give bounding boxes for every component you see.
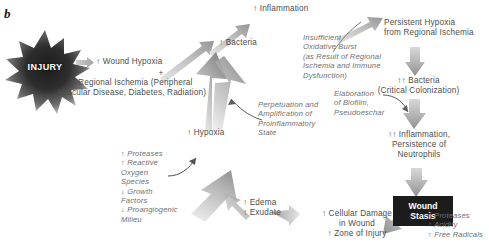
node-regional-ischemia: ↑ Regional Ischemia (Peripheral Vascular… [32,78,232,98]
wound-healing-pathophysiology-diagram: b INJURY ↑ Wound Hypoxia + ↑ Regional Is… [0,0,489,246]
node-inflammation-neutrophils: ↑↑ Inflammation, Persistence of Neutroph… [374,130,464,161]
callout-arrow-biofilm [383,95,408,112]
node-proteases-acidity-free-radicals: ↑ Proteases ↑ Acidity ↑ Free Radicals [428,211,483,239]
annotation-biofilm: Elaboration of Biofilm, Pseudoeschar [334,89,384,117]
arrow-critical-colonization-to-inflammation [403,99,426,129]
callout-arrow-perpetuation [228,99,262,120]
injury-label: INJURY [13,62,77,72]
node-mediators: ↑ Proteases ↑ Reactive Oxygen Species ↓ … [121,149,178,224]
arrow-mediators-to-hypoxia-major [191,170,237,222]
node-bacteria: ↑ Bacteria [219,38,257,48]
node-hypoxia: ↑ Hypoxia [187,128,224,138]
injury-starburst-icon [5,30,90,114]
arrow-inflammation-to-wound-stasis [405,168,428,197]
node-inflammation: ↑ Inflammation [253,4,309,14]
panel-letter: b [4,6,11,22]
annotation-perpetuation: Perpetuation and Amplification of Proinf… [258,100,318,138]
arrow-persistent-hypoxia-to-critical-colonization [405,47,425,76]
node-wound-hypoxia: ↑ Wound Hypoxia [96,57,162,67]
annotation-insufficient-oxidative-burst: Insufficient Oxidative Burst (as Result … [303,33,381,80]
node-persistent-hypoxia: Persistent Hypoxia from Regional Ischemi… [384,18,474,38]
node-cellular-damage: ↑ Cellular Damage in Wound ↑ Zone of Inj… [302,209,412,240]
node-edema-exudate: ↑ Edema ↑ Exudate [243,198,281,218]
